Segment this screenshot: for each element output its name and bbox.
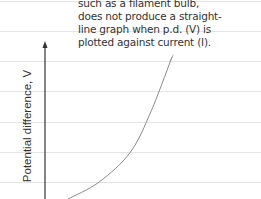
graph	[0, 0, 261, 199]
y-axis-label: Potential difference, V	[21, 70, 33, 182]
vi-curve	[68, 57, 172, 199]
y-axis-arrow-icon	[43, 41, 48, 48]
